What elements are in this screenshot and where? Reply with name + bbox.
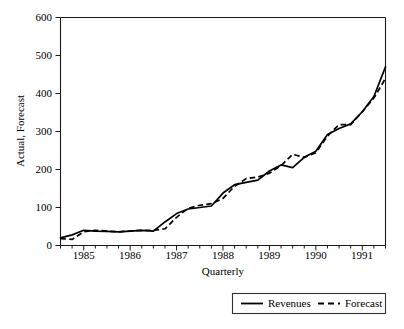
x-tick-label-1989: 1989 [258,249,281,261]
y-axis-title: Actual, Forecast [14,95,26,167]
series-line-revenues [61,67,386,238]
y-tick-label-500: 500 [36,49,53,61]
x-tick-label-1986: 1986 [119,249,142,261]
y-tick-label-300: 300 [36,125,53,137]
legend-label-forecast: Forecast [345,297,382,309]
legend-label-revenues: Revenues [268,297,311,309]
chart-legend: Revenues Forecast [233,294,386,314]
x-axis-tick-labels: 1985 1986 1987 1988 1989 1990 1991 [73,249,373,261]
y-tick-label-0: 0 [47,239,53,251]
plot-frame [61,18,386,246]
x-tick-label-1990: 1990 [305,249,328,261]
y-axis-ticks: 0 100 200 300 400 500 600 [36,11,61,251]
y-tick-label-600: 600 [36,11,53,23]
chart-container: 0 100 200 300 400 500 600 1985 1986 1987… [0,0,404,329]
x-axis-title: Quarterly [202,265,245,277]
x-tick-label-1988: 1988 [212,249,235,261]
series-line-forecast [61,78,386,239]
line-chart: 0 100 200 300 400 500 600 1985 1986 1987… [0,0,404,329]
y-tick-label-100: 100 [36,201,53,213]
x-tick-label-1987: 1987 [166,249,189,261]
y-tick-label-200: 200 [36,163,53,175]
x-tick-label-1985: 1985 [73,249,96,261]
y-tick-label-400: 400 [36,87,53,99]
x-tick-label-1991: 1991 [351,249,373,261]
